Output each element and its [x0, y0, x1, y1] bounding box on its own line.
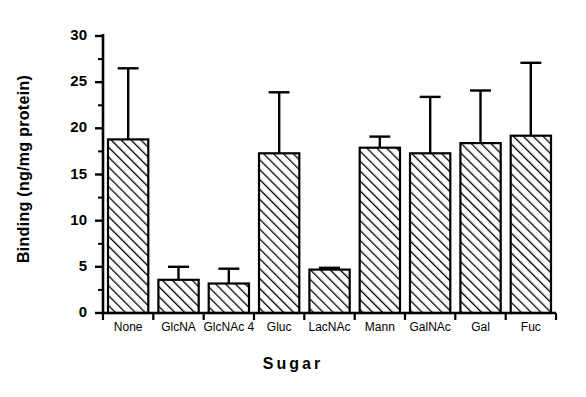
bar-none: [108, 139, 148, 313]
x-axis-label: Sugar: [0, 355, 586, 373]
plot-area: [0, 0, 586, 397]
error-bar-none: [118, 68, 139, 139]
bar-mann: [360, 148, 400, 313]
y-tick-label: 0: [47, 303, 87, 320]
bars-group: [108, 136, 551, 313]
y-tick-label: 25: [47, 72, 87, 89]
bar-lacnac: [309, 270, 349, 313]
x-category-label: Fuc: [491, 320, 571, 334]
bar-fuc: [511, 136, 551, 313]
y-tick-label: 15: [47, 165, 87, 182]
error-bar-mann: [369, 137, 390, 148]
y-tick-label: 10: [47, 211, 87, 228]
error-bar-gluc: [269, 92, 290, 153]
bar-galnac: [410, 153, 450, 313]
y-tick-label: 20: [47, 118, 87, 135]
bar-gal: [460, 143, 500, 313]
error-bar-glcnac-4: [218, 269, 239, 284]
bar-gluc: [259, 153, 299, 313]
bar-glcnac-4: [209, 284, 249, 314]
y-tick-label: 5: [47, 257, 87, 274]
chart-figure: Binding (ng/mg protein) Sugar 0510152025…: [0, 0, 586, 397]
y-tick-label: 30: [47, 26, 87, 43]
error-bar-gal: [470, 91, 491, 144]
error-bar-glcna: [168, 267, 189, 280]
bar-glcna: [158, 280, 198, 313]
y-axis-label: Binding (ng/mg protein): [15, 19, 33, 319]
error-bar-galnac: [420, 97, 441, 153]
error-bar-fuc: [520, 63, 541, 136]
